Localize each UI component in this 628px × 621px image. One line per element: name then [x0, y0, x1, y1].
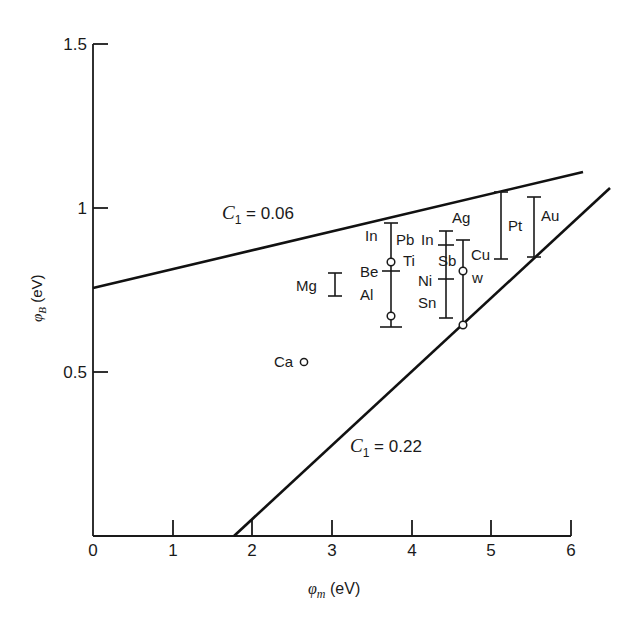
label-cu: Cu	[471, 246, 490, 263]
x-tick-label: 2	[247, 541, 256, 560]
y-tick-label: 1.5	[63, 35, 87, 54]
label-pb: Pb	[396, 231, 414, 248]
y-tick-label: 0.5	[63, 363, 87, 382]
x-tick-label: 5	[486, 541, 495, 560]
label-au: Au	[541, 207, 559, 224]
label-ag: Ag	[452, 209, 470, 226]
label-ca: Ca	[274, 353, 294, 370]
schottky-barrier-chart: 0 1 2 3 4 5 6 0.5 1 1.5 φm (eV) φB (eV) …	[0, 0, 628, 621]
label-sn: Sn	[418, 294, 436, 311]
line-upper-label: C1 = 0.06	[222, 202, 294, 227]
x-tick-labels: 0 1 2 3 4 5 6	[88, 541, 575, 560]
x-tick-label: 6	[566, 541, 575, 560]
point-w-low	[459, 321, 467, 329]
fit-lines	[93, 172, 610, 536]
error-bar-cu-w	[456, 240, 470, 325]
label-ti: Ti	[403, 252, 415, 269]
x-tick-label: 4	[407, 541, 416, 560]
error-bar-pt	[494, 192, 508, 259]
x-axis-title: φm (eV)	[308, 580, 360, 601]
x-tick-label: 1	[168, 541, 177, 560]
point-ca	[300, 358, 307, 365]
error-bar-mg	[328, 273, 342, 296]
y-tick-labels: 0.5 1 1.5	[63, 35, 87, 382]
label-be: Be	[360, 263, 378, 280]
error-bar-sb-sn	[438, 231, 454, 318]
point-w	[459, 267, 467, 275]
error-bar-au	[527, 197, 541, 257]
label-mg: Mg	[296, 277, 317, 294]
metal-labels: Mg In Pb Ti Be Al Ag In Sb Cu Ni w Sn Pt…	[274, 207, 559, 370]
x-tick-label: 3	[327, 541, 336, 560]
label-w: w	[471, 269, 483, 286]
label-al: Al	[360, 286, 373, 303]
data-points	[300, 258, 466, 365]
line-lower-label: C1 = 0.22	[350, 435, 422, 460]
y-tick-label: 1	[78, 199, 87, 218]
point-ti	[387, 258, 395, 266]
x-tick-label: 0	[88, 541, 97, 560]
label-in-left: In	[365, 227, 378, 244]
label-ni: Ni	[418, 272, 432, 289]
label-in-right: In	[421, 231, 434, 248]
point-al	[387, 312, 395, 320]
label-sb: Sb	[438, 252, 456, 269]
label-pt: Pt	[508, 217, 523, 234]
y-axis-title: φB (eV)	[28, 274, 48, 322]
